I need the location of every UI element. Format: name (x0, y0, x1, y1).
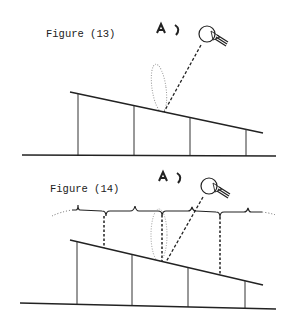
figure-14 (20, 172, 276, 309)
highlight-ellipse (151, 209, 167, 261)
figure-13 (22, 24, 276, 156)
eye-icon (157, 24, 178, 35)
ground-line (22, 155, 276, 156)
sloped-surface (70, 240, 263, 285)
light-bulb-icon (199, 26, 228, 46)
highlight-ellipse (149, 63, 170, 112)
wavy-surface (52, 205, 276, 217)
light-bulb-icon (201, 178, 230, 198)
diagram-canvas (0, 0, 288, 322)
ground-line (20, 303, 276, 309)
light-ray (164, 45, 201, 112)
sloped-surface (70, 92, 263, 133)
eye-icon (159, 172, 180, 183)
support-posts (78, 94, 246, 156)
projection-lines (104, 215, 220, 274)
light-ray (166, 197, 203, 262)
